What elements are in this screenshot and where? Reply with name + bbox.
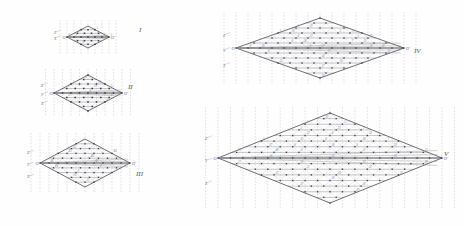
node-number-label: 14 — [113, 149, 117, 153]
grid-edge — [274, 136, 280, 142]
grid-edge — [344, 43, 350, 48]
lattice-node — [379, 180, 380, 181]
lattice-node — [319, 27, 320, 28]
lattice-node — [367, 57, 368, 58]
lattice-node — [348, 174, 349, 175]
grid-edge — [355, 136, 361, 142]
vertex-label-origin: O — [63, 35, 67, 40]
node-number-label: 30 — [325, 115, 329, 119]
lattice-node — [391, 47, 392, 48]
node-number-label: 38 — [331, 143, 335, 147]
lattice-node — [91, 33, 93, 35]
grid-edge — [361, 164, 367, 170]
lattice-node — [311, 129, 312, 130]
grid-edge — [386, 169, 392, 175]
node-number-label: 31 — [344, 120, 348, 124]
lattice-node — [75, 182, 76, 183]
grid-edge — [90, 168, 95, 173]
grid-edge — [326, 28, 332, 33]
grid-edge — [117, 163, 122, 168]
grid-edge — [336, 152, 342, 158]
lattice-node — [348, 140, 349, 141]
grid-edge — [284, 58, 290, 63]
lattice-node — [280, 180, 281, 181]
lattice-node — [311, 185, 312, 186]
lattice-node — [84, 162, 85, 163]
grid-edge — [249, 152, 255, 158]
grid-edge — [99, 158, 104, 163]
grid-edge — [380, 169, 386, 175]
node-number-label: 17 — [321, 64, 325, 68]
lattice-node — [336, 185, 337, 186]
lattice-node — [301, 52, 302, 53]
lattice-node — [331, 67, 332, 68]
grid-edge — [302, 58, 308, 63]
grid-edge — [332, 43, 338, 48]
node-number-label: 8 — [249, 44, 251, 48]
grid-edge — [380, 158, 386, 164]
grid-edge — [368, 53, 374, 58]
grid-edge — [296, 58, 302, 63]
grid-edge — [293, 181, 299, 187]
lattice-node — [273, 163, 274, 164]
grid-edge — [85, 163, 90, 168]
grid-edge — [81, 153, 86, 158]
lattice-node — [304, 146, 305, 147]
lattice-node — [403, 47, 404, 48]
lattice-node — [253, 52, 254, 53]
node-number-label: 22 — [309, 34, 313, 38]
lattice-node — [304, 191, 305, 192]
lattice-node — [107, 167, 108, 168]
grid-edge — [326, 53, 332, 58]
lattice-panel-IV: 1234567891011121314151617181920212223242… — [222, 12, 416, 84]
grid-edge — [367, 152, 373, 158]
grid-edge — [280, 169, 286, 175]
lattice-node — [329, 124, 330, 125]
lattice-node — [80, 158, 81, 159]
lattice-node — [87, 110, 89, 112]
grid-edge — [318, 130, 324, 136]
lattice-node — [325, 62, 326, 63]
grid-edge — [324, 164, 330, 170]
lattice-node — [311, 140, 312, 141]
node-number-label: 16 — [394, 154, 398, 158]
axis-tick — [29, 174, 34, 176]
grid-edge — [112, 158, 117, 163]
lattice-node — [336, 197, 337, 198]
grid-edge — [342, 136, 348, 142]
grid-edge — [262, 147, 268, 153]
grid-edge — [326, 33, 332, 38]
lattice-node — [337, 42, 338, 43]
grid-edge — [305, 141, 311, 147]
grid-edge — [338, 43, 344, 48]
lattice-node — [92, 79, 94, 81]
grid-edge — [326, 43, 332, 48]
lattice-node — [75, 88, 77, 90]
grid-edge — [330, 164, 336, 170]
axis-tick — [207, 181, 212, 183]
axis-tick — [29, 162, 34, 164]
grid-edge — [342, 130, 348, 136]
lattice-node — [325, 42, 326, 43]
node-number-label: 23 — [369, 34, 373, 38]
node-number-label: 24 — [338, 171, 342, 175]
lattice-node — [319, 37, 320, 38]
grid-edge — [392, 169, 398, 175]
node-number-label: 12 — [363, 148, 367, 152]
grid-edge — [280, 175, 286, 181]
node-number-label: 16 — [50, 159, 54, 163]
axis-tick — [29, 150, 34, 152]
grid-edge — [108, 163, 113, 168]
lattice-node — [79, 101, 81, 103]
lattice-node — [398, 140, 399, 141]
lattice-node — [313, 22, 314, 23]
lattice-node — [57, 172, 58, 173]
axis-tick — [56, 36, 61, 38]
lattice-node — [429, 157, 430, 158]
grid-edge — [330, 136, 336, 142]
lattice-node — [84, 172, 85, 173]
grid-edge — [326, 68, 332, 73]
lattice-panel-V: 1234567891011121314151617181920212223242… — [204, 107, 454, 209]
grid-edge — [349, 169, 355, 175]
node-number-label: 11 — [300, 148, 303, 152]
